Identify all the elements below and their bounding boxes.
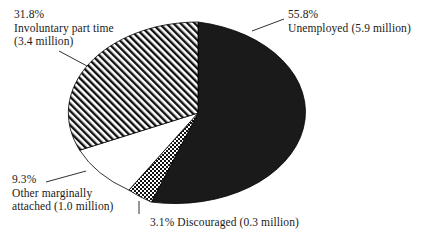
pie-label-involuntary-part-time: 31.8% Involuntary part time (3.4 million…: [14, 8, 114, 49]
leader-line-part-time: [59, 51, 87, 66]
pie-label-part-time-name: Involuntary part time: [14, 22, 114, 36]
leader-line-unemployed: [252, 19, 284, 31]
pie-label-other-percent: 9.3%: [12, 173, 114, 187]
pie-label-part-time-count: (3.4 million): [14, 35, 114, 49]
pie-label-unemployed-name: Unemployed (5.9 million): [288, 22, 411, 36]
pie-label-other-marginally-attached: 9.3% Other marginally attached (1.0 mill…: [12, 173, 114, 214]
pie-label-discouraged-text: 3.1% Discouraged (0.3 million): [150, 216, 299, 230]
pie-label-unemployed: 55.8% Unemployed (5.9 million): [288, 8, 411, 35]
pie-label-other-name: Other marginally: [12, 187, 114, 201]
pie-label-discouraged: 3.1% Discouraged (0.3 million): [150, 216, 299, 230]
pie-label-unemployed-percent: 55.8%: [288, 8, 411, 22]
pie-chart-figure: 31.8% Involuntary part time (3.4 million…: [0, 0, 423, 241]
pie-label-other-count: attached (1.0 million): [12, 200, 114, 214]
pie-label-part-time-percent: 31.8%: [14, 8, 114, 22]
